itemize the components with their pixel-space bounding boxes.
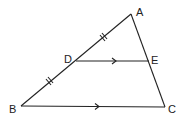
label-a: A: [136, 6, 144, 18]
label-d: D: [64, 53, 72, 65]
triangle-diagram: A D E B C: [0, 0, 182, 118]
label-b: B: [9, 103, 16, 115]
label-e: E: [151, 54, 158, 66]
label-c: C: [168, 103, 176, 115]
segment-bc: [21, 106, 165, 107]
